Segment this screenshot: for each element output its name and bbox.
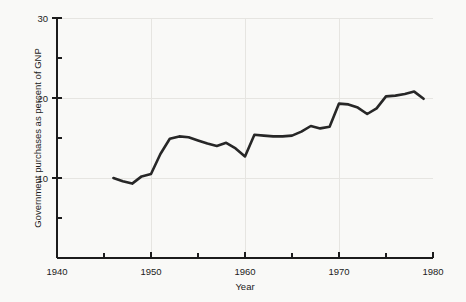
x-axis-title: Year bbox=[235, 281, 254, 292]
x-tick-label: 1940 bbox=[46, 266, 67, 277]
chart-figure: 102030 19401950196019701980 Year Governm… bbox=[0, 0, 466, 302]
y-tick-label: 30 bbox=[37, 13, 48, 24]
x-tick-label: 1980 bbox=[422, 266, 443, 277]
x-tick-labels: 19401950196019701980 bbox=[46, 266, 443, 277]
x-tick-marks bbox=[57, 252, 433, 258]
y-axis-title: Government purchases as percent of GNP bbox=[32, 48, 43, 228]
x-tick-label: 1960 bbox=[234, 266, 255, 277]
data-series-line bbox=[113, 92, 423, 184]
gridlines bbox=[57, 18, 433, 258]
x-tick-label: 1950 bbox=[140, 266, 161, 277]
line-chart: 102030 19401950196019701980 Year Governm… bbox=[0, 0, 466, 302]
x-tick-label: 1970 bbox=[328, 266, 349, 277]
